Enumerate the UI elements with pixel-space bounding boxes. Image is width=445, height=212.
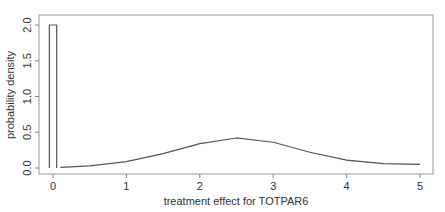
series-layer [49,25,420,168]
density-curve [60,138,420,167]
y-tick-label: 0.5 [21,125,33,140]
x-axis: 012345 [50,174,423,192]
y-tick-label: 0.0 [21,160,33,175]
y-tick-label: 2.0 [21,17,33,32]
x-tick-label: 1 [123,180,129,192]
y-axis-title: probability density [4,50,16,139]
density-plot: 012345 0.00.51.01.52.0 treatment effect … [0,0,445,212]
y-tick-label: 1.0 [21,89,33,104]
x-tick-label: 2 [197,180,203,192]
point-mass-rectangle [49,25,56,168]
y-tick-label: 1.5 [21,53,33,68]
y-axis: 0.00.51.01.52.0 [21,17,39,175]
x-tick-label: 4 [344,180,350,192]
x-tick-label: 0 [50,180,56,192]
x-tick-label: 5 [417,180,423,192]
x-axis-title: treatment effect for TOTPAR6 [164,195,309,207]
x-tick-label: 3 [270,180,276,192]
plot-frame [39,15,433,174]
